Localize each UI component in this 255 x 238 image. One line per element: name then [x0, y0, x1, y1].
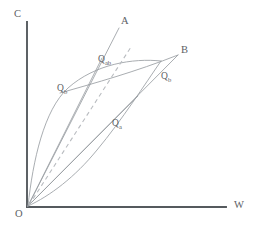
label-line-b: B [181, 45, 188, 56]
label-q-ab-base: Q [98, 54, 105, 64]
label-q-b-left: Qb [57, 84, 67, 95]
label-q-ab: Qab [98, 55, 111, 66]
axis-label-c: C [14, 9, 21, 20]
diagram-figure [0, 0, 255, 238]
label-q-a-base: Q [112, 118, 119, 128]
label-q-b-right-subscript: b [168, 76, 171, 83]
label-q-ab-subscript: ab [105, 59, 111, 66]
q-a-ray [28, 96, 138, 206]
label-q-b-right-base: Q [161, 71, 168, 81]
label-q-a: Qa [112, 119, 122, 130]
axis-label-origin: O [15, 209, 23, 220]
label-q-b-right: Qb [161, 72, 171, 83]
label-q-b-left-base: Q [57, 83, 64, 93]
label-q-a-subscript: a [119, 123, 122, 130]
label-line-a: A [121, 16, 129, 27]
diagram-canvas: C W O A B Qab Qb Qb Qa [0, 0, 255, 238]
label-q-b-left-subscript: b [64, 88, 67, 95]
q-ab-ray [28, 58, 102, 206]
upper-isoquant-curve [28, 60, 161, 206]
axis-label-w: W [234, 200, 244, 211]
